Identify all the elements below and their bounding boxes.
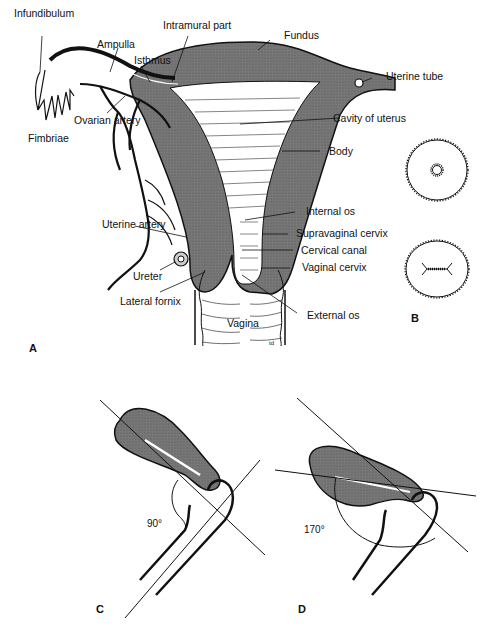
artist-mark: td [269,340,274,346]
label-external-os: External os [307,310,360,321]
panel-label-d: D [298,604,306,615]
panel-b-cervix-cross-sections [405,139,469,298]
angle-label-c: 90° [147,519,162,529]
label-cervical-canal: Cervical canal [301,245,367,256]
label-lateral-fornix: Lateral fornix [120,296,181,307]
panel-a-uterus-diagram [36,36,395,346]
panel-d-retroverted-uterus [275,398,476,595]
panel-c-anteverted-uterus [100,400,265,618]
panel-label-c: C [96,604,104,615]
label-vagina: Vagina [227,318,259,329]
label-intramural-part: Intramural part [163,20,231,31]
label-ovarian-artery: Ovarian artery [74,115,141,126]
label-isthmus: Isthmus [134,55,171,66]
label-ureter: Ureter [133,271,162,282]
label-infundibulum: Infundibulum [14,8,74,19]
label-cavity-of-uterus: Cavity of uterus [333,113,406,124]
label-uterine-artery: Uterine artery [102,219,166,230]
label-internal-os: Internal os [306,206,355,217]
label-body: Body [329,146,353,157]
angle-label-d: 170° [304,525,325,535]
label-uterine-tube: Uterine tube [386,71,443,82]
label-vaginal-cervix: Vaginal cervix [302,262,367,273]
label-ampulla: Ampulla [97,39,135,50]
panel-label-a: A [29,343,37,354]
panel-label-b: B [411,313,419,324]
label-supravaginal-cervix: Supravaginal cervix [296,228,388,239]
label-fimbriae: Fimbriae [28,133,69,144]
label-fundus: Fundus [284,30,319,41]
